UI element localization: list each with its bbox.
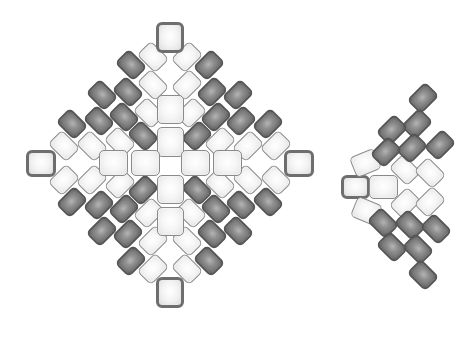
axis-bead — [157, 95, 184, 124]
cap-bead — [341, 175, 370, 199]
cap-bead — [156, 277, 184, 308]
dark-bead — [407, 82, 440, 115]
dark-bead — [424, 129, 456, 162]
light-bead — [369, 175, 398, 199]
dark-bead — [420, 213, 453, 246]
axis-bead — [131, 150, 160, 176]
cap-bead — [26, 150, 56, 177]
axis-bead — [99, 150, 128, 176]
dark-bead — [86, 79, 119, 112]
dark-bead — [86, 215, 119, 248]
axis-bead — [157, 175, 184, 204]
light-bead — [414, 157, 447, 190]
dark-bead — [407, 259, 440, 292]
axis-bead — [213, 150, 242, 176]
dark-bead — [222, 79, 255, 112]
dark-bead — [222, 215, 255, 248]
axis-bead — [157, 207, 184, 236]
cap-bead — [156, 22, 184, 53]
light-bead — [414, 186, 447, 219]
cap-bead — [284, 150, 314, 177]
axis-bead — [181, 150, 210, 176]
axis-bead — [157, 127, 184, 157]
